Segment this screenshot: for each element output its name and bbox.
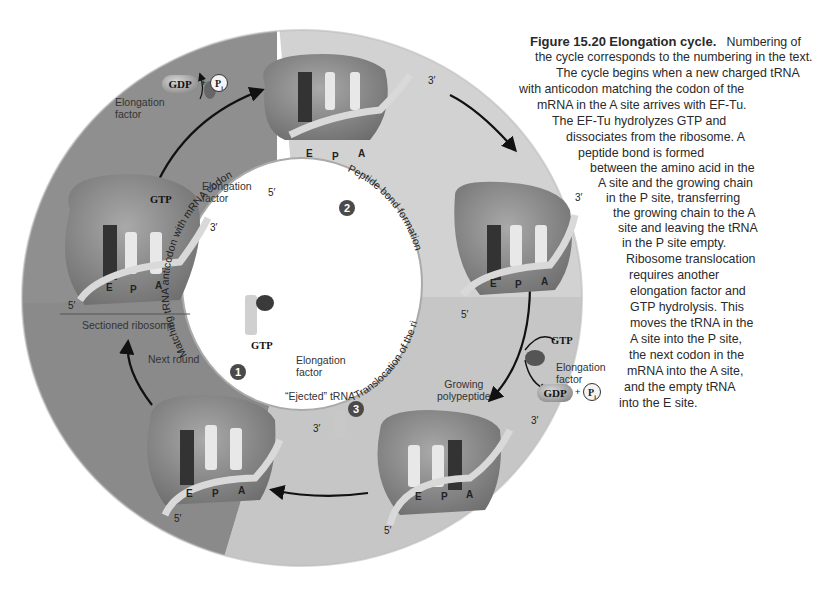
three-prime-right: 3′ <box>575 192 582 203</box>
next-round-label: Next round <box>148 353 199 365</box>
site-e-top: E <box>306 148 313 159</box>
caption-line: between the amino acid in the <box>590 161 755 177</box>
site-a-bottom-left: A <box>238 485 245 496</box>
pi-badge: Pi <box>210 74 228 92</box>
caption-line: site and leaving the tRNA <box>618 221 758 237</box>
caption-line: and the empty tRNA <box>624 380 736 396</box>
caption-line: A site and the growing chain <box>598 176 753 192</box>
five-prime-top: 5′ <box>268 187 275 198</box>
caption-line: into the E site. <box>619 396 698 412</box>
caption-line: in the P site, transferring <box>606 191 740 207</box>
elongation-factor-label-top: Elongationfactor <box>115 96 165 120</box>
site-a-bottom-right: A <box>466 489 473 500</box>
gtp-burst-left: GTP <box>150 194 172 205</box>
caption-line: GTP hydrolysis. This <box>630 300 744 316</box>
site-p-top: P <box>332 151 339 162</box>
caption-line: elongation factor and <box>630 284 746 300</box>
gdp-badge: GDP <box>162 75 198 93</box>
figure-title: Elongation cycle. <box>609 34 716 49</box>
elongation-factor-label-inner: Elongationfactor <box>296 354 346 378</box>
step-3-badge: 3 <box>348 401 364 417</box>
elongation-factor-label-left: Elongationfactor <box>202 180 252 204</box>
step-1-badge: 1 <box>230 364 246 380</box>
five-prime-left: 5′ <box>68 300 75 311</box>
site-p-bottom-right: P <box>441 491 448 502</box>
site-a-right: A <box>541 276 548 287</box>
ribosome-bottom-right <box>378 410 511 525</box>
five-prime-bottom-right: 5′ <box>384 525 391 536</box>
site-p-bottom-left: P <box>212 488 219 499</box>
caption-line: mRNA in the A site arrives with EF-Tu. <box>537 98 747 114</box>
three-prime-bottom-left: 3′ <box>313 423 320 434</box>
caption-line: Ribosome translocation <box>626 252 755 268</box>
caption-line: the growing chain to the A <box>613 206 756 222</box>
three-prime-bottom-right: 3′ <box>531 415 538 426</box>
site-p-right: P <box>515 279 522 290</box>
caption-line: in the P site empty. <box>622 236 726 252</box>
caption-line: dissociates from the ribosome. A <box>566 130 745 146</box>
site-a-left: A <box>155 280 162 291</box>
ejected-trna-label: “Ejected” tRNA <box>285 390 355 402</box>
caption-line: the next codon in the <box>629 348 744 364</box>
ribosome-right <box>454 182 575 295</box>
three-prime-left: 3′ <box>210 222 217 233</box>
site-e-bottom-right: E <box>415 491 422 502</box>
caption-line: A site into the P site, <box>630 332 742 348</box>
caption-line: peptide bond is formed <box>578 146 704 162</box>
five-prime-right: 5′ <box>461 309 468 320</box>
caption-line: mRNA into the A site, <box>627 364 743 380</box>
plus-sign: + <box>201 78 206 88</box>
site-e-left: E <box>106 282 113 293</box>
sectioned-ribosome-label: Sectioned ribosome <box>82 319 175 331</box>
growing-polypeptide-label: Growingpolypeptide <box>437 378 491 402</box>
site-a-top: A <box>358 148 365 159</box>
step-2-badge: 2 <box>339 200 355 216</box>
elongation-factor-label-right: Elongationfactor <box>556 361 606 385</box>
site-e-bottom-left: E <box>186 488 193 499</box>
caption-line: moves the tRNA in the <box>630 316 753 332</box>
caption-line: the cycle corresponds to the numbering i… <box>535 50 813 66</box>
plus-sign-right: + <box>575 387 580 397</box>
caption-line: Numbering of <box>727 35 801 49</box>
caption-line: The cycle begins when a new charged tRNA <box>556 66 800 82</box>
ejected-trna <box>335 410 345 438</box>
figure-number: Figure 15.20 <box>530 34 606 49</box>
gdp-badge-right: GDP <box>537 384 573 402</box>
gtp-burst-right: GTP <box>551 335 573 346</box>
ef-g-factor <box>525 350 545 366</box>
site-p-left: P <box>130 284 137 295</box>
caption-line: requires another <box>629 268 719 284</box>
caption-line: The EF-Tu hydrolyzes GTP and <box>552 114 726 130</box>
caption-line: with anticodon matching the codon of the <box>519 82 744 98</box>
five-prime-bottom-left: 5′ <box>174 513 181 524</box>
three-prime-top: 3′ <box>428 75 435 86</box>
site-e-right: E <box>490 278 497 289</box>
pi-badge-right: Pi <box>583 383 601 401</box>
gtp-burst-incoming: GTP <box>251 340 273 351</box>
